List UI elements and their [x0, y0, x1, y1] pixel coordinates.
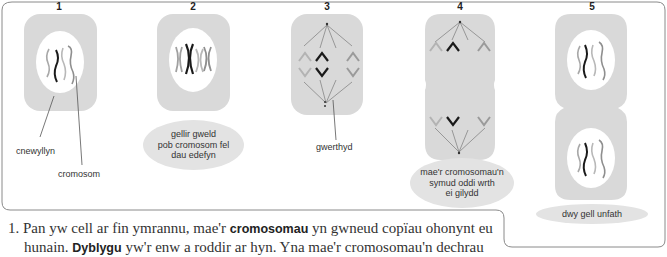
term-chromosomes: cromosomau — [230, 222, 309, 236]
label-spindle: gwerthyd — [316, 142, 353, 153]
caption-stage-2: gellir gweld pob cromosom fel dau edefyn — [158, 129, 230, 161]
term-replication: Dyblygu — [72, 241, 121, 255]
stage-number-3: 3 — [317, 1, 337, 12]
stage-3-cell — [291, 14, 363, 140]
stage-5-cells — [555, 14, 627, 200]
stage-4-cell — [425, 14, 495, 160]
body-line-2: hunain. Dyblygu yw'r enw a roddir ar hyn… — [8, 238, 528, 257]
stage-number-5: 5 — [582, 1, 602, 12]
label-chromosome: cromosom — [58, 169, 100, 180]
caption-stage-5: dwy gell unfath — [562, 209, 622, 220]
caption-bubble-stage-5: dwy gell unfath — [536, 204, 648, 224]
body-paragraph: 1. Pan yw cell ar fin ymrannu, mae'r cro… — [8, 219, 528, 257]
stage-number-2: 2 — [183, 1, 203, 12]
caption-stage-4: mae'r cromosomau'n symud oddi wrth ei gi… — [420, 167, 503, 199]
label-nucleus: cnewyllyn — [16, 146, 55, 157]
caption-bubble-stage-4: mae'r cromosomau'n symud oddi wrth ei gi… — [410, 158, 514, 208]
stage-number-4: 4 — [450, 1, 470, 12]
caption-bubble-stage-2: gellir gweld pob cromosom fel dau edefyn — [143, 120, 244, 170]
stage-2-cell — [157, 14, 230, 111]
body-line-1: 1. Pan yw cell ar fin ymrannu, mae'r cro… — [8, 219, 528, 238]
stage-number-1: 1 — [49, 1, 69, 12]
stage-1-cell — [24, 14, 97, 165]
